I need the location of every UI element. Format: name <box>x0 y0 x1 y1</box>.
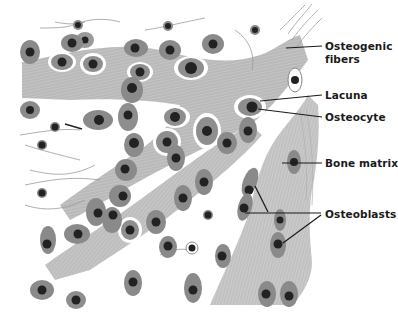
label-osteoblasts: Osteoblasts <box>325 208 396 220</box>
label-osteocyte: Osteocyte <box>325 111 386 123</box>
stray-mark <box>65 124 82 129</box>
label-osteogenic-fibers-line2: fibers <box>325 53 360 65</box>
label-osteogenic-fibers-line1: Osteogenic <box>325 40 392 52</box>
label-bone-matrix: Bone matrix <box>325 157 398 169</box>
label-lacuna: Lacuna <box>325 89 368 101</box>
